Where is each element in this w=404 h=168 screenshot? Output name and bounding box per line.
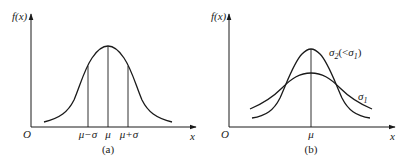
- origin-label: O: [23, 128, 31, 140]
- tick-mu-plus-sigma: μ+σ: [119, 128, 139, 140]
- x-axis-label: x: [189, 130, 195, 142]
- tick-mu: μ: [104, 128, 111, 140]
- tick-mu: μ: [307, 128, 314, 140]
- y-axis-label: f(x): [12, 10, 28, 23]
- y-axis-label: f(x): [211, 10, 227, 23]
- sigma2-label: σ2(<σ1): [329, 46, 362, 61]
- tick-mu-minus-sigma: μ−σ: [78, 128, 98, 140]
- origin-label: O: [221, 128, 229, 140]
- caption-a: (a): [102, 143, 115, 156]
- x-axis-label: x: [389, 130, 395, 142]
- normal-distribution-diagram: f(x) O x μ−σ μ μ+σ (a) f(x) O x μ σ2(<σ1…: [0, 0, 404, 168]
- panel-a: f(x) O x μ−σ μ μ+σ (a): [12, 10, 196, 156]
- panel-b: f(x) O x μ σ2(<σ1) σ1 (b): [211, 10, 395, 156]
- caption-b: (b): [305, 143, 318, 156]
